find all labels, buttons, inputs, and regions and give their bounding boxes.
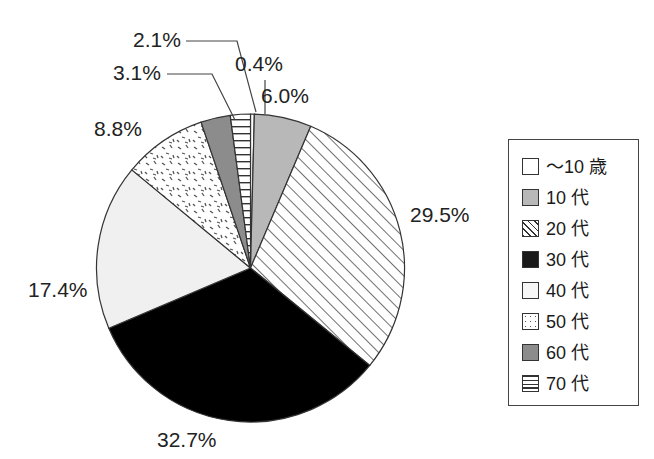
legend-item-label: 10 代 bbox=[546, 189, 589, 207]
legend-item[interactable]: 40 代 bbox=[522, 275, 638, 306]
data-label-70dai: 2.1% bbox=[133, 28, 181, 52]
legend-swatch-solid-gray-icon bbox=[522, 189, 539, 206]
legend-swatch-solid-black-icon bbox=[522, 251, 539, 268]
data-label-60dai: 3.1% bbox=[113, 61, 161, 85]
legend-item[interactable]: 70 代 bbox=[522, 368, 638, 399]
legend-item[interactable]: 60 代 bbox=[522, 337, 638, 368]
legend-item[interactable]: 30 代 bbox=[522, 244, 638, 275]
legend: ～10 歳10 代20 代30 代40 代50 代60 代70 代 bbox=[508, 139, 639, 406]
legend-item[interactable]: 50 代 bbox=[522, 306, 638, 337]
legend-swatch-solid-dark-gray-icon bbox=[522, 344, 539, 361]
legend-item-label: ～10 歳 bbox=[546, 158, 607, 176]
leader-line-60dai bbox=[167, 74, 235, 120]
data-label-10sai: 0.4% bbox=[235, 52, 283, 76]
legend-item[interactable]: 10 代 bbox=[522, 182, 638, 213]
data-label-30dai: 32.7% bbox=[157, 428, 217, 452]
legend-swatch-solid-very-light-icon bbox=[522, 282, 539, 299]
legend-item[interactable]: ～10 歳 bbox=[522, 151, 638, 182]
data-label-50dai: 8.8% bbox=[94, 117, 142, 141]
legend-item-label: 60 代 bbox=[546, 344, 589, 362]
data-label-40dai: 17.4% bbox=[28, 278, 88, 302]
legend-item-label: 70 代 bbox=[546, 375, 589, 393]
legend-item-label: 40 代 bbox=[546, 282, 589, 300]
legend-item-label: 50 代 bbox=[546, 313, 589, 331]
legend-swatch-solid-white-icon bbox=[522, 158, 539, 175]
data-label-10dai: 6.0% bbox=[261, 84, 309, 108]
legend-swatch-stipple-dots-icon bbox=[522, 313, 539, 330]
chart-canvas: 2.1% 3.1% 0.4% 6.0% 8.8% 29.5% 17.4% 32.… bbox=[0, 0, 654, 459]
legend-swatch-horizontal-lines-icon bbox=[522, 375, 539, 392]
legend-swatch-diagonal-hatch-icon bbox=[522, 220, 539, 237]
legend-item-label: 20 代 bbox=[546, 220, 589, 238]
legend-item-label: 30 代 bbox=[546, 251, 589, 269]
pie-slices bbox=[96, 114, 404, 422]
data-label-20dai: 29.5% bbox=[410, 203, 470, 227]
legend-item[interactable]: 20 代 bbox=[522, 213, 638, 244]
